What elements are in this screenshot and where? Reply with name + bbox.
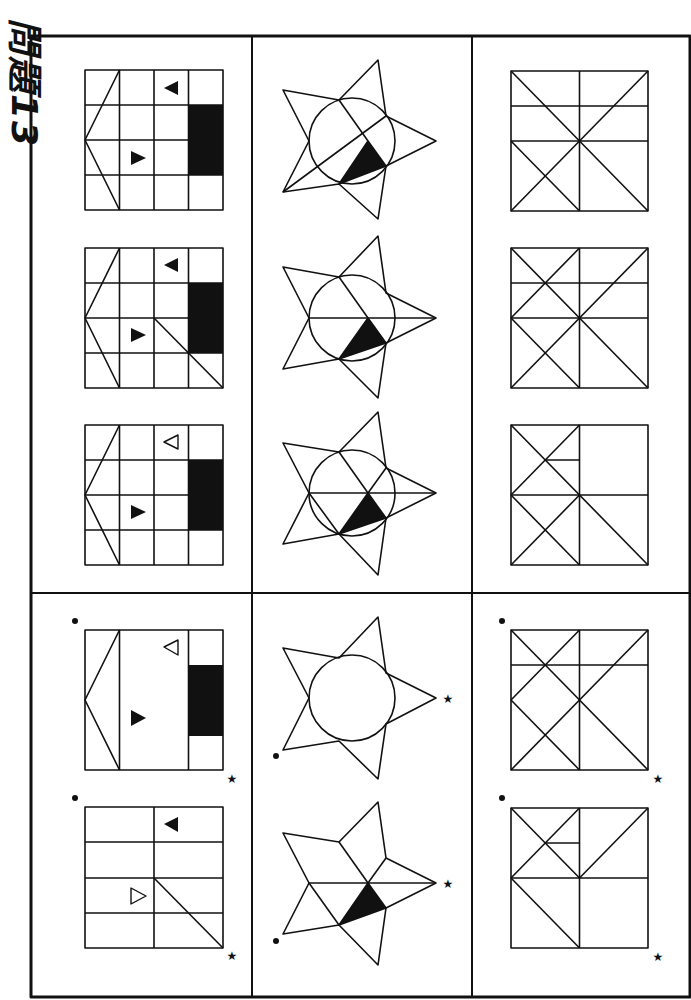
square-figure-2 [511, 248, 648, 388]
dot-marker [72, 618, 78, 624]
dot-marker [273, 938, 279, 944]
star-marker: ★ [653, 950, 664, 964]
grid-figure-3 [85, 425, 223, 565]
star-marker: ★ [443, 877, 454, 891]
star-marker: ★ [227, 772, 238, 786]
star-marker: ★ [653, 772, 664, 786]
star-figure-1 [283, 60, 436, 219]
dot-marker [499, 618, 505, 624]
grid-option-a[interactable]: ★ [72, 618, 237, 786]
puzzle-sheet: ★ ★ [0, 0, 691, 1000]
star-figure-3 [283, 412, 436, 575]
grid-option-b[interactable]: ★ [72, 795, 237, 963]
grid-figure-1 [85, 70, 223, 210]
square-option-b[interactable]: ★ [499, 795, 663, 964]
grid-figure-2 [85, 248, 223, 388]
star-option-a[interactable]: ★ [273, 617, 453, 779]
star-marker: ★ [443, 692, 454, 706]
star-marker: ★ [227, 949, 238, 963]
dot-marker [499, 795, 505, 801]
square-figure-3 [511, 425, 648, 565]
star-figure-2 [283, 236, 436, 398]
square-figure-1 [511, 71, 648, 211]
dot-marker [72, 795, 78, 801]
dot-marker [273, 753, 279, 759]
square-option-a[interactable]: ★ [499, 618, 663, 786]
star-option-b[interactable]: ★ [273, 802, 453, 965]
